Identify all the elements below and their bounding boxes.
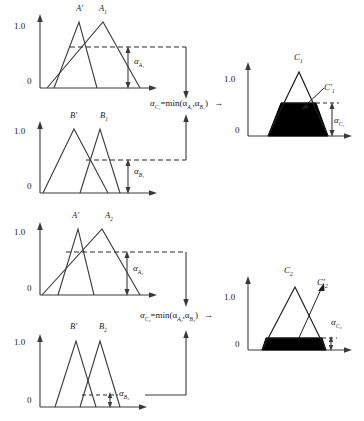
set-label-a-prime-2: A′ [72,211,79,220]
clipped-set-label-c2: C′2 [317,278,328,289]
set-label-b2: B2 [99,322,107,333]
set-label-a1: A1 [99,4,107,15]
axis-label-high-c2: 1.0 [224,293,235,302]
panel-b2: 1.0 0 B′ B2 αB₂ [0,315,200,421]
set-label-c2: C2 [284,266,293,277]
alpha-label-c1: αC₁ [334,116,344,127]
plot-a2 [0,208,200,313]
set-label-b1: B1 [100,111,108,122]
set-label-b-prime-2: B′ [70,322,77,331]
plot-c2 [200,252,364,372]
axis-label-zero-b1: 0 [27,182,32,191]
panel-c2: 1.0 0 C2 C′2 αC₂ [200,252,364,372]
alpha-label-a1: αA₁ [134,57,144,68]
axis-label-high-b1: 1.0 [14,127,25,136]
set-label-b-prime-1: B′ [70,111,77,120]
axis-label-zero-a1: 0 [27,77,32,86]
alpha-label-a2: αA₂ [133,264,143,275]
axis-label-high-c1: 1.0 [224,75,235,84]
set-label-c1: C1 [294,53,303,64]
panel-a2: 1.0 0 A′ A2 αA₂ [0,208,200,313]
plot-a1 [0,0,200,105]
axis-label-high-b2: 1.0 [14,338,25,347]
panel-a1: 1.0 0 A′ A1 αA₁ [0,0,200,105]
clipped-set-label-c1: C′1 [324,83,335,94]
axis-label-zero-c2: 0 [235,340,240,349]
set-label-a-prime-1: A′ [76,4,83,13]
axis-label-high-a1: 1.0 [14,22,25,31]
panel-c1: 1.0 0 C1 C′1 αC₁ [200,40,364,155]
set-label-a2: A2 [105,211,113,222]
axis-label-zero-b2: 0 [27,396,32,405]
alpha-label-b2: αB₂ [119,389,129,400]
axis-label-zero-a2: 0 [27,284,32,293]
plot-c1 [200,40,364,155]
axis-label-zero-c1: 0 [235,126,240,135]
alpha-label-c2: αC₂ [331,318,341,329]
axis-label-high-a2: 1.0 [14,228,25,237]
panel-b1: 1.0 0 B′ B1 αB₁ [0,105,200,210]
alpha-label-b1: αB₁ [134,167,144,178]
